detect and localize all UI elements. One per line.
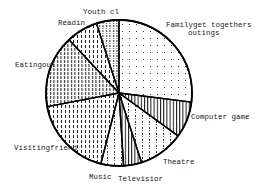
label-music: Music: [89, 173, 112, 181]
label-computer-games: Computer game: [191, 113, 250, 121]
label-youth-club: Youth cl: [83, 8, 119, 16]
label-visiting-friends: Visitingfriend: [14, 144, 77, 152]
label-family-line2: outings: [166, 29, 252, 37]
label-theatre: Theatre: [163, 158, 195, 166]
label-television: Televisior: [118, 175, 163, 183]
label-eating-out: Eatingoul: [15, 61, 56, 69]
label-family: Familyget togethers outings: [166, 21, 252, 37]
label-family-line1: Familyget togethers: [166, 21, 252, 29]
label-reading: Readin: [58, 19, 85, 27]
